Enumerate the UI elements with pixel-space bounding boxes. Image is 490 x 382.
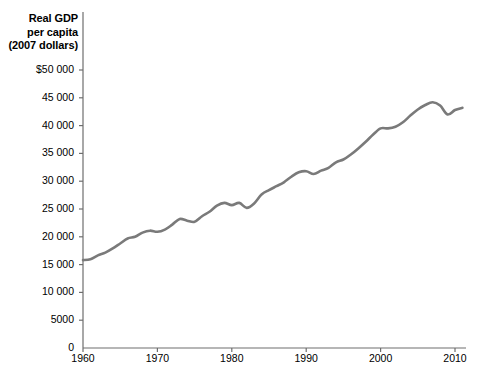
x-tick-label: 2010 xyxy=(432,353,478,364)
y-tick-label: 40 000 xyxy=(0,120,74,131)
y-tick-label: 30 000 xyxy=(0,175,74,186)
y-tick-label: 25 000 xyxy=(0,203,74,214)
y-axis-title-line-2: per capita xyxy=(0,26,78,40)
x-tick-label: 1970 xyxy=(134,353,180,364)
x-tick-label: 2000 xyxy=(358,353,404,364)
y-tick-label: $50 000 xyxy=(0,64,74,75)
gdp-line-series xyxy=(83,102,462,260)
gdp-per-capita-chart: Real GDP per capita (2007 dollars) 05000… xyxy=(0,0,490,382)
y-tick-label: 15 000 xyxy=(0,259,74,270)
y-tick-label: 20 000 xyxy=(0,231,74,242)
y-axis-title-line-3: (2007 dollars) xyxy=(0,39,78,53)
y-tick-label: 10 000 xyxy=(0,286,74,297)
y-axis-title-line-1: Real GDP xyxy=(0,12,78,26)
y-axis-title: Real GDP per capita (2007 dollars) xyxy=(0,12,78,53)
x-tick-label: 1960 xyxy=(60,353,106,364)
y-tick-label: 45 000 xyxy=(0,92,74,103)
x-tick-label: 1990 xyxy=(283,353,329,364)
x-tick-label: 1980 xyxy=(209,353,255,364)
y-tick-label: 35 000 xyxy=(0,147,74,158)
y-tick-label: 0 xyxy=(0,342,74,353)
y-tick-label: 5000 xyxy=(0,314,74,325)
